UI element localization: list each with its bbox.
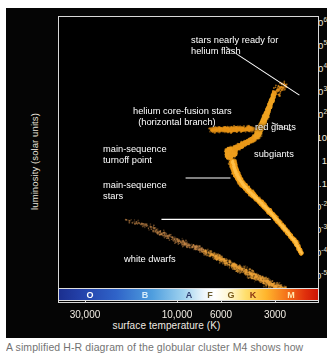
annotation-white-dwarfs: white dwarfs [124,254,176,265]
spectral-label-O: O [86,289,93,301]
spectral-label-K: K [250,289,257,301]
annotation-turnoff-point: main-sequence turnoff point [103,144,167,166]
annotation-helium-core-fusion: helium core-fusion stars (horizontal bra… [133,106,232,128]
annotation-main-sequence-stars: main-sequence stars [103,180,167,202]
x-tick-label: 10,000 [162,309,193,320]
x-tick-label: 30,000 [70,309,101,320]
annotation-subgiants: subgiants [254,149,294,160]
spectral-label-M: M [287,289,295,301]
spectral-label-F: F [207,289,213,301]
annotation-red-giants: red giants [255,122,296,133]
spectral-label-B: B [142,289,149,301]
star-scatter-canvas [59,17,319,303]
annotation-helium-flash: stars nearly ready for helium flash [191,35,278,57]
figure-plate: luminosity (solar units) 106 105 104 103… [6,8,327,338]
x-tick-label: 3000 [264,309,286,320]
figure-caption: A simplified H-R diagram of the globular… [6,341,327,355]
x-axis-title: surface temperature (K) [6,320,327,331]
x-tick-label: 6000 [210,309,232,320]
spectral-label-G: G [227,289,234,301]
spectral-label-A: A [186,289,193,301]
hr-diagram-figure: luminosity (solar units) 106 105 104 103… [0,0,333,357]
